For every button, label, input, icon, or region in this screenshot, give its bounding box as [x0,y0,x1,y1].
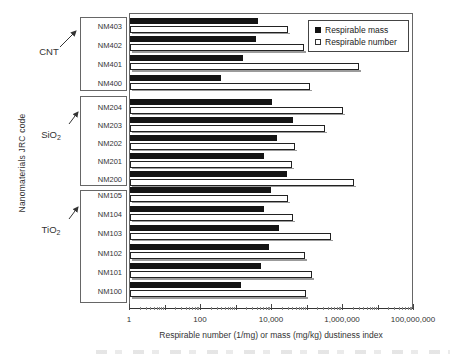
legend-label-mass: Respirable mass [325,25,388,35]
x-axis-tick [165,305,166,310]
bar-shadow [132,168,294,170]
bar-respirable-mass [130,135,277,141]
cropped-caption-fragment [96,350,450,354]
bar-respirable-number [130,214,293,221]
x-axis-tick [413,304,414,310]
bar-respirable-number [130,161,292,168]
category-label: NM400 [80,79,122,89]
x-axis-minor-tick [323,307,324,310]
x-axis-minor-tick [140,307,141,310]
x-axis-minor-tick [405,307,406,310]
x-axis-tick [307,305,308,310]
bar-respirable-mass [130,99,272,105]
x-axis-minor-tick [282,307,283,310]
category-label: NM100 [80,287,122,297]
bar-respirable-number [130,252,305,259]
x-tick-label: 1,000,000 [324,315,360,324]
bar-respirable-number [130,44,304,51]
x-tick-label: 100 [193,315,206,324]
x-axis-minor-tick [146,307,147,310]
x-axis-minor-tick [159,307,160,310]
x-axis-minor-tick [228,307,229,310]
x-axis-minor-tick [394,307,395,310]
bar-respirable-number [130,290,306,297]
plot-area: NM403NM402NM401NM400NM204NM203NM202NM201… [0,0,452,357]
x-axis-minor-tick [367,307,368,310]
x-axis-minor-tick [211,307,212,310]
x-axis-minor-tick [192,307,193,310]
x-axis-minor-tick [154,307,155,310]
category-label: NM204 [80,103,122,113]
x-axis-minor-tick [370,307,371,310]
bar-respirable-number [130,195,288,202]
legend: Respirable mass Respirable number [308,20,409,52]
x-axis-tick [378,305,379,310]
bar-respirable-number [130,233,331,240]
x-axis-minor-tick [337,307,338,310]
category-label: NM103 [80,229,122,239]
x-axis-minor-tick [299,307,300,310]
x-axis-minor-tick [257,307,258,310]
x-axis-minor-tick [328,307,329,310]
category-label: NM202 [80,139,122,149]
x-tick-label: 1 [127,315,131,324]
bar-shadow [132,278,314,280]
x-axis-title: Respirable number (1/mg) or mass (mg/kg)… [159,330,382,340]
x-axis-minor-tick [263,307,264,310]
filled-square-icon [315,27,321,33]
x-axis-minor-tick [301,307,302,310]
bar-shadow [132,297,308,299]
bar-shadow [132,70,361,72]
legend-entry-number: Respirable number [315,37,408,47]
bar-shadow [132,259,307,261]
category-label: NM402 [80,41,122,51]
x-axis-minor-tick [292,307,293,310]
bar-respirable-mass [130,153,264,159]
bar-respirable-number [130,26,288,33]
category-label: NM102 [80,249,122,259]
x-tick-label: 100,000,000 [391,315,436,324]
open-square-icon [315,39,321,45]
legend-label-number: Respirable number [325,37,397,47]
x-axis-minor-tick [230,307,231,310]
legend-entry-mass: Respirable mass [315,25,408,35]
x-axis-minor-tick [408,307,409,310]
bar-shadow [132,132,327,134]
bar-shadow [132,114,345,116]
category-label: NM403 [80,22,122,32]
bar-respirable-number [130,63,359,70]
bar-respirable-mass [130,187,271,193]
category-label: NM201 [80,157,122,167]
x-axis-minor-tick [334,307,335,310]
bar-respirable-mass [130,282,241,288]
category-label: NM104 [80,210,122,220]
bar-respirable-mass [130,171,287,177]
x-axis-tick [200,304,201,310]
x-axis-minor-tick [353,307,354,310]
x-axis-minor-tick [363,307,364,310]
x-axis-tick [129,304,130,310]
x-axis-minor-tick [221,307,222,310]
category-label: NM203 [80,121,122,131]
x-axis-minor-tick [157,307,158,310]
x-axis-minor-tick [189,307,190,310]
bar-respirable-mass [130,55,243,61]
bar-respirable-number [130,107,343,114]
bar-shadow [132,90,312,92]
bar-respirable-mass [130,36,256,42]
x-axis-minor-tick [372,307,373,310]
bar-shadow [132,221,295,223]
bar-respirable-number [130,179,354,186]
x-axis-minor-tick [388,307,389,310]
x-axis-tick [342,304,343,310]
x-axis-minor-tick [260,307,261,310]
bar-respirable-mass [130,18,258,24]
bar-shadow [132,51,306,53]
category-label: NM105 [80,191,122,201]
bar-shadow [132,150,297,152]
bar-shadow [132,240,333,242]
x-axis-minor-tick [252,307,253,310]
bar-respirable-mass [130,225,279,231]
bar-respirable-number [130,143,295,150]
x-axis-minor-tick [288,307,289,310]
